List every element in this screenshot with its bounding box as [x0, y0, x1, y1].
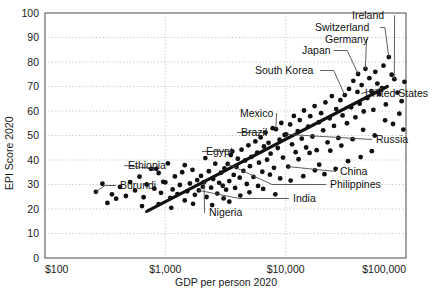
annotation-label: China: [340, 165, 368, 177]
annotation-label: United States: [365, 87, 428, 99]
annotation-leader-line: [228, 164, 326, 185]
data-point: [123, 194, 128, 199]
y-tick-label: 20: [27, 203, 39, 215]
data-point: [332, 124, 337, 129]
data-point: [209, 185, 214, 190]
chart-canvas: 0102030405060708090100 $100$1,000$10,000…: [0, 0, 439, 293]
data-point: [172, 174, 177, 179]
data-point: [268, 172, 273, 177]
data-point: [188, 181, 193, 186]
data-point: [182, 198, 187, 203]
data-point: [402, 79, 407, 84]
data-point: [110, 192, 115, 197]
data-point: [391, 122, 396, 127]
annotation-leader-line: [320, 71, 345, 96]
data-point: [272, 165, 277, 170]
data-point: [353, 115, 358, 120]
data-point: [114, 196, 119, 201]
data-point: [345, 121, 350, 126]
data-point: [375, 81, 380, 86]
data-point: [361, 109, 366, 114]
annotation-leader-line: [96, 186, 116, 192]
data-point: [328, 148, 333, 153]
data-point: [312, 104, 317, 109]
data-point: [182, 163, 187, 168]
annotation-label: South Korea: [255, 64, 314, 76]
annotation-label: Brazil: [241, 126, 267, 138]
x-tick-label: $1,000: [149, 263, 181, 275]
y-tick-label: 10: [27, 227, 39, 239]
data-point: [319, 111, 324, 116]
data-point: [279, 121, 284, 126]
y-axis-title: EPI Score 2020: [3, 116, 15, 190]
data-point: [304, 145, 309, 150]
data-point: [322, 172, 327, 177]
data-point: [233, 186, 238, 191]
data-point: [177, 183, 182, 188]
data-point: [221, 196, 226, 201]
data-point: [199, 174, 204, 179]
data-point: [163, 180, 168, 185]
data-point: [260, 169, 265, 174]
data-point: [165, 161, 170, 166]
data-point: [314, 148, 319, 153]
data-point: [140, 204, 145, 209]
data-point: [389, 72, 394, 77]
country-annotations: IrelandSwitzerlandGermanyJapanSouth Kore…: [120, 9, 428, 218]
data-point: [371, 107, 376, 112]
data-point: [204, 195, 209, 200]
data-point: [301, 174, 306, 179]
annotation-label: India: [293, 192, 316, 204]
y-tick-labels: 0102030405060708090100: [21, 7, 39, 264]
data-point: [338, 98, 343, 103]
annotation-label: Mexico: [240, 107, 273, 119]
data-point: [268, 151, 273, 156]
data-point: [265, 157, 270, 162]
data-point: [347, 87, 352, 92]
data-point: [401, 127, 406, 132]
data-point: [100, 181, 105, 186]
data-point: [141, 195, 146, 200]
data-point: [238, 193, 243, 198]
data-point: [227, 199, 232, 204]
data-point: [235, 156, 240, 161]
data-point: [302, 108, 307, 113]
data-point: [356, 72, 361, 77]
x-tick-label: $100: [45, 263, 69, 275]
data-point: [346, 159, 351, 164]
data-point: [239, 147, 244, 152]
y-tick-label: 40: [27, 154, 39, 166]
y-tick-label: 30: [27, 178, 39, 190]
data-point: [308, 114, 313, 119]
data-point: [275, 146, 280, 151]
data-point: [340, 113, 345, 118]
data-point: [246, 143, 251, 148]
data-point: [291, 114, 296, 119]
data-point: [288, 122, 293, 127]
data-point: [355, 89, 360, 94]
data-point: [333, 166, 338, 171]
data-point: [244, 182, 249, 187]
data-point: [159, 190, 164, 195]
y-tick-label: 70: [27, 80, 39, 92]
x-tick-label: $100,000: [362, 263, 406, 275]
data-point: [299, 136, 304, 141]
y-tick-label: 0: [33, 252, 39, 264]
data-point: [257, 160, 262, 165]
data-point: [281, 155, 286, 160]
annotation-leader-line: [380, 28, 389, 58]
data-point: [397, 111, 402, 116]
annotation-label: Russia: [376, 133, 408, 145]
data-point: [339, 143, 344, 148]
annotation-label: Nigeria: [209, 206, 242, 218]
data-point: [224, 187, 229, 192]
data-point: [293, 150, 298, 155]
y-tick-label: 80: [27, 56, 39, 68]
epi-gdp-scatter-chart: 0102030405060708090100 $100$1,000$10,000…: [0, 0, 439, 293]
data-point: [190, 167, 195, 172]
data-point: [329, 94, 334, 99]
data-point: [266, 140, 271, 145]
data-point: [383, 102, 388, 107]
data-point: [170, 187, 175, 192]
data-point: [191, 201, 196, 206]
